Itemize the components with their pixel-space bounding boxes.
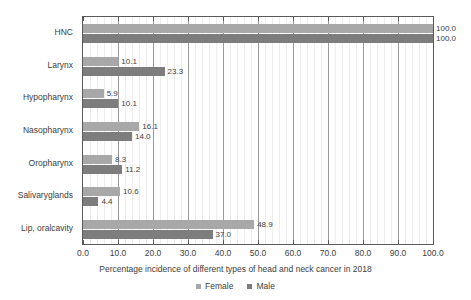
category-label: Lip, oralcavity [0, 219, 78, 238]
bar-female[interactable] [83, 122, 139, 131]
chart-legend: FemaleMale [0, 281, 471, 291]
bar-value-label: 37.0 [213, 230, 232, 239]
bar-value-label: 23.3 [165, 67, 184, 76]
legend-label: Female [205, 281, 233, 291]
bar-value-label: 10.1 [118, 99, 137, 108]
bar-female[interactable] [83, 57, 118, 66]
bar-male[interactable] [83, 230, 213, 239]
axis-tick-bottom [433, 240, 434, 244]
bar-value-label: 100.0 [433, 34, 456, 43]
axis-tick-bottom [398, 240, 399, 244]
axis-tick-top [363, 17, 364, 21]
bar-female[interactable] [83, 24, 433, 33]
axis-tick-top [433, 17, 434, 21]
category-label: Nasopharynx [0, 121, 78, 140]
legend-entry[interactable]: Male [247, 281, 274, 291]
bar-group: 48.937.0 [83, 220, 433, 239]
x-tick-label: 80.0 [355, 248, 372, 258]
axis-tick-bottom [223, 240, 224, 244]
bar-male[interactable] [83, 197, 98, 206]
bar-female[interactable] [83, 187, 120, 196]
bar-group: 100.0100.0 [83, 24, 433, 43]
axis-tick-top [118, 17, 119, 21]
legend-swatch-icon [247, 284, 252, 289]
x-axis-tick-labels: 0.010.020.030.040.050.060.070.080.090.01… [82, 248, 434, 260]
axis-tick-top [153, 17, 154, 21]
bar-value-label: 4.4 [98, 197, 112, 206]
legend-label: Male [256, 281, 274, 291]
legend-entry[interactable]: Female [196, 281, 233, 291]
bar-group: 16.114.0 [83, 122, 433, 141]
category-label: Salivaryglands [0, 186, 78, 205]
axis-tick-bottom [328, 240, 329, 244]
bar-value-label: 11.2 [122, 165, 140, 174]
axis-tick-top [398, 17, 399, 21]
x-tick-label: 100.0 [422, 248, 443, 258]
axis-tick-top [258, 17, 259, 21]
bar-value-label: 100.0 [433, 24, 456, 33]
x-tick-label: 10.0 [110, 248, 127, 258]
bar-value-label: 10.6 [120, 187, 139, 196]
bar-female[interactable] [83, 220, 254, 229]
axis-tick-bottom [258, 240, 259, 244]
x-tick-label: 50.0 [250, 248, 267, 258]
bar-group: 5.910.1 [83, 89, 433, 108]
category-label: Oropharynx [0, 154, 78, 173]
bar-value-label: 48.9 [254, 220, 273, 229]
bar-value-label: 16.1 [139, 122, 158, 131]
axis-tick-top [328, 17, 329, 21]
bar-group: 10.123.3 [83, 57, 433, 76]
x-tick-label: 20.0 [145, 248, 162, 258]
bar-value-label: 14.0 [132, 132, 151, 141]
x-axis-title: Percentage incidence of different types … [0, 264, 471, 274]
bar-male[interactable] [83, 132, 132, 141]
axis-tick-bottom [188, 240, 189, 244]
bar-group: 10.64.4 [83, 187, 433, 206]
x-tick-label: 40.0 [215, 248, 232, 258]
bar-group: 8.311.2 [83, 155, 433, 174]
category-label: Hypopharynx [0, 88, 78, 107]
axis-tick-bottom [363, 240, 364, 244]
bar-male[interactable] [83, 165, 122, 174]
plot-area: 100.0100.010.123.35.910.116.114.08.311.2… [82, 16, 434, 245]
category-label: Larynx [0, 56, 78, 75]
x-tick-label: 0.0 [77, 248, 89, 258]
bar-male[interactable] [83, 34, 433, 43]
bar-female[interactable] [83, 89, 104, 98]
axis-tick-bottom [83, 240, 84, 244]
x-tick-label: 90.0 [390, 248, 407, 258]
axis-tick-bottom [153, 240, 154, 244]
bar-value-label: 10.1 [118, 57, 137, 66]
axis-tick-top [293, 17, 294, 21]
axis-tick-top [83, 17, 84, 21]
category-axis-labels: HNCLarynxHypopharynxNasopharynxOropharyn… [0, 16, 78, 245]
bar-chart: 100.0100.010.123.35.910.116.114.08.311.2… [0, 0, 471, 300]
x-tick-label: 60.0 [285, 248, 302, 258]
bar-value-label: 8.3 [112, 155, 126, 164]
bar-female[interactable] [83, 155, 112, 164]
x-tick-label: 30.0 [180, 248, 197, 258]
axis-tick-top [188, 17, 189, 21]
category-label: HNC [0, 23, 78, 42]
bar-male[interactable] [83, 99, 118, 108]
bar-male[interactable] [83, 67, 165, 76]
axis-tick-top [223, 17, 224, 21]
axis-tick-bottom [293, 240, 294, 244]
legend-swatch-icon [196, 284, 201, 289]
x-tick-label: 70.0 [320, 248, 337, 258]
axis-tick-bottom [118, 240, 119, 244]
bar-value-label: 5.9 [104, 89, 118, 98]
